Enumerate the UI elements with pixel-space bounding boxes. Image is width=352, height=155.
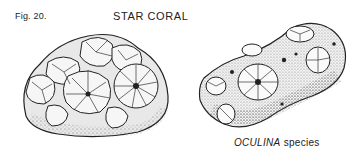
star-coral-illustration	[8, 24, 178, 142]
caption-genus: OCULINA	[234, 137, 281, 148]
figure-title: STAR CORAL	[113, 10, 188, 22]
oculina-illustration	[192, 20, 352, 132]
caption-rest: species	[281, 137, 320, 148]
figure-number: Fig. 20.	[15, 11, 47, 21]
figure-page: Fig. 20. STAR CORAL	[0, 0, 352, 155]
species-caption: OCULINA species	[234, 137, 320, 148]
